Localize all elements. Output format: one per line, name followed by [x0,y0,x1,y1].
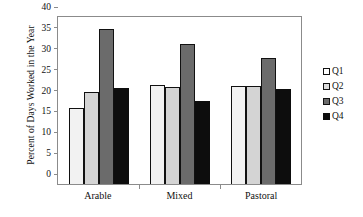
bar-arable-q4[interactable] [114,88,129,184]
legend-swatch-q3 [323,98,330,105]
y-axis-tick: 30 [42,44,59,54]
y-axis-tick-label: 15 [42,106,55,116]
y-axis-tick-label: 0 [46,169,54,179]
legend-swatch-q2 [323,83,330,90]
legend-label-q3: Q3 [332,96,344,106]
bar-mixed-q2[interactable] [165,87,180,184]
legend-label-q2: Q2 [332,81,344,91]
bar-mixed-q1[interactable] [150,85,165,184]
bar-groups [58,17,301,184]
bar-pastoral-q2[interactable] [246,86,261,184]
x-axis-label-mixed: Mixed [139,190,221,202]
y-axis-tick: 5 [46,148,58,158]
bar-mixed-q4[interactable] [195,101,210,184]
legend-item-q1[interactable]: Q1 [323,66,344,76]
legend-label-q1: Q1 [332,66,344,76]
bar-group-pastoral [220,17,301,184]
legend-item-q2[interactable]: Q2 [323,81,344,91]
bar-chart: Percent of Days Worked in the Year 05101… [0,0,363,217]
y-axis-tick: 20 [42,86,59,96]
legend-label-q4: Q4 [332,111,344,121]
legend-swatch-q4 [323,113,330,120]
x-axis-separator [139,184,140,189]
bar-group-mixed [139,17,220,184]
y-axis-tick-label: 40 [42,2,55,12]
x-axis-label-arable: Arable [57,190,139,202]
bar-arable-q2[interactable] [84,92,99,184]
y-axis-tick-mark [54,7,58,8]
y-axis-tick: 25 [42,65,59,75]
bar-arable-q1[interactable] [69,108,84,184]
y-axis-tick-label: 35 [42,23,55,33]
y-axis-tick-label: 5 [46,148,54,158]
bar-pastoral-q1[interactable] [231,86,246,184]
y-axis-title: Percent of Days Worked in the Year [26,15,36,175]
plot-area: 0510152025303540 [57,16,302,185]
y-axis-tick-label: 30 [42,44,55,54]
y-axis-tick-label: 10 [42,127,55,137]
x-axis-separator [220,184,221,189]
y-axis-tick: 0 [46,169,58,179]
y-axis-tick: 35 [42,23,59,33]
y-axis-tick: 10 [42,127,59,137]
legend-swatch-q1 [323,68,330,75]
bar-pastoral-q4[interactable] [276,89,291,184]
bar-arable-q3[interactable] [99,29,114,184]
y-axis-tick-label: 25 [42,65,55,75]
legend-item-q3[interactable]: Q3 [323,96,344,106]
y-axis-tick: 15 [42,106,59,116]
bar-mixed-q3[interactable] [180,44,195,184]
bar-group-arable [58,17,139,184]
bar-pastoral-q3[interactable] [261,58,276,185]
x-axis-label-pastoral: Pastoral [220,190,302,202]
y-axis-tick-label: 20 [42,86,55,96]
legend-item-q4[interactable]: Q4 [323,111,344,121]
y-axis-tick: 40 [42,2,59,12]
chart-legend: Q1Q2Q3Q4 [323,66,344,121]
